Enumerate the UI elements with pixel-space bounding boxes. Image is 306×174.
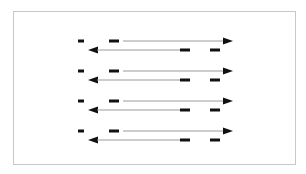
arrow-pair-1 — [78, 38, 233, 54]
forward-dash-1 — [78, 40, 84, 43]
forward-dash-2 — [109, 70, 119, 73]
arrowhead-right-icon — [223, 38, 233, 45]
reverse-dash-1 — [180, 79, 190, 82]
reverse-dash-2 — [210, 139, 220, 142]
arrowhead-right-icon — [223, 98, 233, 105]
arrowhead-left-icon — [88, 107, 98, 114]
arrowhead-left-icon — [88, 137, 98, 144]
forward-dash-2 — [109, 130, 119, 133]
reverse-dash-2 — [210, 79, 220, 82]
reverse-dash-1 — [180, 139, 190, 142]
arrow-pairs-diagram — [0, 0, 306, 174]
reverse-dash-2 — [210, 49, 220, 52]
arrow-pair-3 — [78, 98, 233, 114]
reverse-dash-1 — [180, 109, 190, 112]
diagram-canvas — [0, 0, 306, 174]
arrowhead-right-icon — [223, 68, 233, 75]
arrow-pair-4 — [78, 128, 233, 144]
forward-dash-1 — [78, 130, 84, 133]
forward-dash-2 — [109, 100, 119, 103]
arrowhead-left-icon — [88, 77, 98, 84]
arrow-pair-2 — [78, 68, 233, 84]
arrowhead-left-icon — [88, 47, 98, 54]
reverse-dash-1 — [180, 49, 190, 52]
arrowhead-right-icon — [223, 128, 233, 135]
forward-dash-1 — [78, 100, 84, 103]
reverse-dash-2 — [210, 109, 220, 112]
forward-dash-1 — [78, 70, 84, 73]
forward-dash-2 — [109, 40, 119, 43]
